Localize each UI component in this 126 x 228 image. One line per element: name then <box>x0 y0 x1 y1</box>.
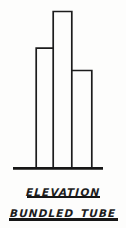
shaft-center-tube <box>53 12 72 169</box>
caption-bundled-tube-underline <box>9 218 118 221</box>
caption-elevation-underline <box>27 196 100 198</box>
shaft-right-tube <box>72 71 92 169</box>
bundled-tube-elevation-svg <box>0 0 126 180</box>
caption-block: ELEVATION BUNDLEDTUBE <box>0 178 126 228</box>
shaft-left-tube <box>36 48 53 168</box>
figure-canvas: ELEVATION BUNDLEDTUBE <box>0 0 126 228</box>
elevation-drawing <box>0 0 126 180</box>
